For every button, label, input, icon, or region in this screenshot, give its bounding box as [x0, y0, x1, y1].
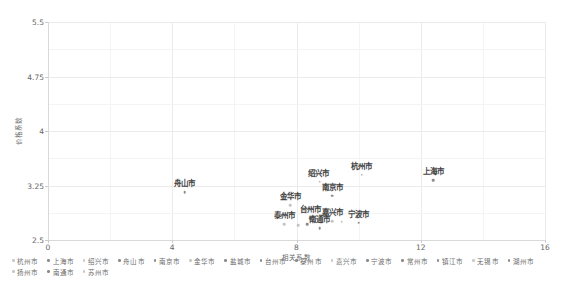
gridline-horizontal-minor	[48, 49, 545, 50]
legend-item-label: 镇江市	[442, 256, 463, 266]
x-axis-tick-label: 16	[540, 243, 550, 252]
legend-item[interactable]: 宁波市	[366, 255, 392, 266]
y-axis-tick-mark	[45, 131, 48, 132]
data-point[interactable]	[331, 220, 334, 223]
data-point[interactable]	[432, 179, 435, 182]
legend-marker-icon	[295, 259, 298, 262]
data-point[interactable]	[289, 204, 292, 207]
data-point-label: 杭州市	[351, 162, 372, 171]
y-axis-tick-mark	[45, 186, 48, 187]
gridline-horizontal	[48, 131, 545, 132]
legend-item[interactable]: 南京市	[154, 255, 180, 266]
legend-item-label: 苏州市	[88, 267, 109, 277]
legend-item-label: 南通市	[53, 267, 74, 277]
chart-legend: 杭州市上海市绍兴市舟山市南京市金华市盐城市台州市泰州市嘉兴市宁波市常州市镇江市无…	[12, 255, 552, 277]
legend-item-label: 宁波市	[371, 256, 392, 266]
data-point-label: 金华市	[280, 192, 301, 201]
legend-marker-icon	[189, 259, 192, 262]
data-point[interactable]	[297, 224, 300, 227]
x-axis-tick-mark	[297, 240, 298, 243]
gridline-horizontal	[48, 186, 545, 187]
gridline-horizontal-minor	[48, 213, 545, 214]
gridline-horizontal-minor	[48, 104, 545, 105]
gridline-vertical	[545, 22, 546, 240]
scatter-chart: 04812162.53.2544.755.5 舟山市金华市泰州市台州市南通市绍兴…	[0, 0, 562, 287]
legend-item[interactable]: 杭州市	[12, 255, 38, 266]
data-point-label: 南京市	[322, 183, 343, 192]
data-point[interactable]	[319, 227, 322, 230]
legend-marker-icon	[401, 259, 404, 262]
plot-area	[48, 22, 545, 240]
data-point-label: 舟山市	[174, 179, 195, 188]
legend-marker-icon	[224, 259, 227, 262]
legend-item-label: 无锡市	[477, 256, 498, 266]
legend-marker-icon	[366, 259, 369, 262]
legend-item-label: 盐城市	[230, 256, 251, 266]
legend-item-label: 金华市	[194, 256, 215, 266]
legend-marker-icon	[260, 259, 263, 262]
legend-item[interactable]: 盐城市	[224, 255, 250, 266]
data-point-label: 宁波市	[348, 210, 369, 219]
data-point[interactable]	[283, 223, 286, 226]
data-point[interactable]	[183, 191, 186, 194]
legend-item[interactable]: 湖州市	[508, 255, 534, 266]
legend-marker-icon	[47, 270, 50, 273]
legend-item-label: 嘉兴市	[336, 256, 357, 266]
x-axis-tick-label: 12	[416, 243, 426, 252]
legend-item-label: 台州市	[265, 256, 286, 266]
legend-item[interactable]: 台州市	[260, 255, 286, 266]
legend-item[interactable]: 泰州市	[295, 255, 321, 266]
gridline-horizontal-minor	[48, 158, 545, 159]
data-point[interactable]	[357, 221, 360, 224]
legend-item-label: 泰州市	[300, 256, 321, 266]
legend-item[interactable]: 嘉兴市	[331, 255, 357, 266]
legend-marker-icon	[437, 259, 440, 262]
data-point[interactable]	[319, 181, 322, 184]
data-point-label: 嘉兴市	[322, 208, 343, 217]
data-point-label: 台州市	[300, 205, 321, 214]
y-axis-title: 价格系数	[13, 117, 23, 146]
legend-marker-icon	[508, 259, 511, 262]
legend-item[interactable]: 苏州市	[83, 266, 109, 277]
y-axis-tick-mark	[45, 77, 48, 78]
legend-item[interactable]: 金华市	[189, 255, 215, 266]
legend-marker-icon	[12, 270, 15, 273]
legend-marker-icon	[83, 270, 86, 273]
legend-item-label: 杭州市	[17, 256, 38, 266]
legend-item[interactable]: 绍兴市	[83, 255, 109, 266]
legend-item-label: 湖州市	[513, 256, 534, 266]
x-axis-tick-mark	[421, 240, 422, 243]
legend-item-label: 绍兴市	[88, 256, 109, 266]
data-point[interactable]	[340, 221, 343, 224]
legend-marker-icon	[118, 259, 121, 262]
x-axis-tick-label: 4	[170, 243, 175, 252]
legend-marker-icon	[154, 259, 157, 262]
data-point-label: 上海市	[423, 167, 444, 176]
legend-item-label: 舟山市	[123, 256, 144, 266]
gridline-horizontal	[48, 22, 545, 23]
y-axis-tick-mark	[45, 22, 48, 23]
legend-marker-icon	[47, 259, 50, 262]
legend-item-label: 扬州市	[17, 267, 38, 277]
legend-marker-icon	[12, 259, 15, 262]
legend-item[interactable]: 常州市	[401, 255, 427, 266]
data-point[interactable]	[360, 173, 363, 176]
x-axis-tick-label: 8	[294, 243, 299, 252]
gridline-horizontal	[48, 77, 545, 78]
legend-item-label: 南京市	[159, 256, 180, 266]
legend-item-label: 上海市	[53, 256, 74, 266]
legend-marker-icon	[83, 259, 86, 262]
data-point-label: 泰州市	[274, 211, 295, 220]
legend-item[interactable]: 南通市	[47, 266, 73, 277]
legend-item[interactable]: 无锡市	[472, 255, 498, 266]
legend-marker-icon	[331, 259, 334, 262]
data-point[interactable]	[331, 194, 334, 197]
legend-item[interactable]: 扬州市	[12, 266, 38, 277]
legend-item[interactable]: 舟山市	[118, 255, 144, 266]
legend-item[interactable]: 上海市	[47, 255, 73, 266]
legend-item[interactable]: 镇江市	[437, 255, 463, 266]
legend-item-label: 常州市	[407, 256, 428, 266]
data-point-label: 绍兴市	[308, 169, 329, 178]
data-point[interactable]	[306, 223, 309, 226]
x-axis-tick-mark	[545, 240, 546, 243]
